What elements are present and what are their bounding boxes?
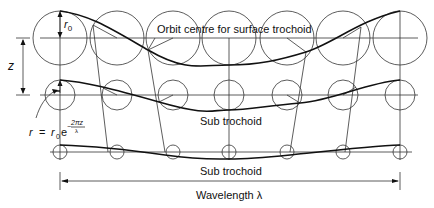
trochoidal-wave-diagram: r0 z Orbit centre for surface trochoid S…: [0, 0, 434, 208]
r-dimension-arrow: [36, 80, 63, 118]
surface-trochoid-curve: [60, 11, 400, 66]
z-label: z: [7, 59, 14, 73]
radius-spoke: [159, 95, 173, 102]
z-dimension-arrow: [16, 38, 30, 95]
svg-text:λ: λ: [75, 128, 78, 134]
decay-formula: r = r 0 e − 2πz λ: [29, 119, 85, 140]
sub-trochoid-label-1: Sub trochoid: [200, 115, 262, 127]
r0-dimension-arrow: [58, 11, 63, 38]
r0-label: r0: [64, 18, 73, 33]
diagram-canvas: r0 z Orbit centre for surface trochoid S…: [0, 0, 434, 208]
svg-text:=: =: [39, 126, 45, 138]
radius-spoke: [287, 38, 306, 52]
radius-spoke: [93, 25, 117, 38]
svg-text:r: r: [29, 126, 34, 138]
radius-spoke: [287, 95, 300, 103]
sub-trochoid-label-2: Sub trochoid: [200, 165, 262, 177]
wavelength-label: Wavelength λ: [196, 189, 263, 201]
svg-text:0: 0: [56, 133, 60, 140]
sub-trochoid-curve-1: [60, 80, 400, 111]
surface-trochoid-label: Orbit centre for surface trochoid: [157, 23, 312, 35]
svg-text:2πz: 2πz: [70, 119, 84, 126]
